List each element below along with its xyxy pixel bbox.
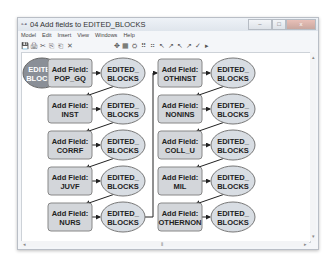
add-field-tool-node[interactable]: Add Field:COLL_U (158, 131, 202, 159)
tool-label-line1: Add Field: (52, 137, 89, 146)
output-data-node[interactable]: EDITED_BLOCKS (211, 130, 255, 160)
fit-icon[interactable]: ⠶ (149, 41, 156, 50)
menu-edit[interactable]: Edit (42, 32, 51, 40)
menu-model[interactable]: Model (21, 32, 36, 40)
scroll-right-icon[interactable]: ▸ (304, 241, 307, 247)
output-label-line2: BLOCKS (107, 110, 139, 119)
tool-label-line1: Add Field: (52, 65, 89, 74)
delete-icon[interactable]: ✕ (66, 41, 73, 50)
connector (145, 73, 157, 217)
tool-label-line2: MIL (174, 182, 187, 191)
paste-icon[interactable]: ⎗ (57, 41, 64, 50)
connector (196, 86, 225, 96)
menu-windows[interactable]: Windows (95, 32, 117, 40)
minimize-button[interactable]: – (248, 19, 272, 30)
tool-label-line2: INST (61, 110, 79, 119)
output-label-line2: BLOCKS (217, 182, 249, 191)
output-data-node[interactable]: EDITED_BLOCKS (211, 58, 255, 88)
menu-insert[interactable]: Insert (57, 32, 71, 40)
menu-view[interactable]: View (77, 32, 89, 40)
select-tool-icon[interactable]: ↖ (176, 41, 183, 50)
cut-icon[interactable]: ✂ (39, 41, 46, 50)
connector (86, 158, 115, 168)
output-data-node[interactable]: EDITED_BLOCKS (101, 202, 145, 232)
scroll-thumb[interactable]: ⦀ (161, 241, 163, 247)
window-controls: – □ x (248, 19, 316, 28)
model-icon: ⊶ (21, 21, 28, 27)
connect-icon[interactable]: ↗ (167, 41, 174, 50)
window-title: 04 Add fields to EDITED_BLOCKS (30, 20, 145, 29)
output-data-node[interactable]: EDITED_BLOCKS (101, 130, 145, 160)
copy-icon[interactable]: ⎘ (48, 41, 55, 50)
horizontal-scrollbar[interactable]: ◂ ⦀ ▸ (21, 241, 309, 247)
menu-bar: Model Edit Insert View Windows Help (21, 32, 135, 40)
add-connection-icon[interactable]: ↗ (185, 41, 192, 50)
auto-layout-icon[interactable]: ⛭ (131, 41, 138, 50)
output-label-line2: BLOCKS (217, 110, 249, 119)
pan-icon[interactable]: ✥ (113, 41, 120, 50)
tool-label-line1: Add Field: (52, 209, 89, 218)
tool-label-line2: JUVF (60, 182, 80, 191)
output-label-line1: EDITED_ (107, 101, 140, 110)
model-diagram: EDITEDBLOCKSAdd Field:POP_GQEDITED_BLOCK… (22, 53, 310, 242)
full-extent-icon[interactable]: ▦ (122, 41, 129, 50)
output-label-line1: EDITED_ (217, 137, 250, 146)
connector (196, 194, 225, 204)
output-label-line1: EDITED_ (107, 209, 140, 218)
model-canvas[interactable]: EDITEDBLOCKSAdd Field:POP_GQEDITED_BLOCK… (21, 52, 311, 243)
output-label-line2: BLOCKS (107, 74, 139, 83)
add-field-tool-node[interactable]: Add Field:NONINS (158, 95, 202, 123)
toolbar: 💾 🖨 ✂ ⎘ ⎗ ✕ ✥ ▦ ⛭ ⠿ ⠶ ↖ ↗ ↖ ↗ ✓ ▸ (21, 41, 210, 50)
menu-help[interactable]: Help (123, 32, 134, 40)
output-data-node[interactable]: EDITED_BLOCKS (211, 202, 255, 232)
vertical-scrollbar[interactable]: ▴ ▾ (310, 52, 316, 241)
tool-label-line1: Add Field: (162, 209, 199, 218)
connector (86, 86, 115, 96)
connector (86, 122, 115, 132)
output-label-line2: BLOCKS (107, 146, 139, 155)
maximize-button[interactable]: □ (272, 19, 286, 30)
add-field-tool-node[interactable]: Add Field:OTHERNON (158, 203, 202, 231)
output-label-line1: EDITED_ (217, 209, 250, 218)
tool-label-line1: Add Field: (162, 137, 199, 146)
run-icon[interactable]: ▸ (203, 41, 210, 50)
output-label-line2: BLOCKS (107, 182, 139, 191)
output-label-line1: EDITED_ (107, 65, 140, 74)
scroll-left-icon[interactable]: ◂ (23, 241, 26, 247)
output-label-line1: EDITED_ (217, 173, 250, 182)
add-field-tool-node[interactable]: Add Field:JUVF (48, 167, 92, 195)
title-bar[interactable]: ⊶ 04 Add fields to EDITED_BLOCKS – □ x (18, 18, 318, 31)
close-button[interactable]: x (286, 19, 316, 30)
grid-icon[interactable]: ⠿ (140, 41, 147, 50)
connector (86, 194, 115, 204)
tool-label-line2: OTHERNON (159, 218, 202, 227)
tool-label-line2: NURS (59, 218, 80, 227)
output-data-node[interactable]: EDITED_BLOCKS (101, 94, 145, 124)
add-field-tool-node[interactable]: Add Field:NURS (48, 203, 92, 231)
add-field-tool-node[interactable]: Add Field:INST (48, 95, 92, 123)
output-data-node[interactable]: EDITED_BLOCKS (101, 166, 145, 196)
validate-icon[interactable]: ✓ (194, 41, 201, 50)
output-label-line1: EDITED_ (217, 101, 250, 110)
add-field-tool-node[interactable]: Add Field:OTHINST (158, 59, 202, 87)
output-label-line1: EDITED_ (107, 137, 140, 146)
output-data-node[interactable]: EDITED_BLOCKS (101, 58, 145, 88)
output-data-node[interactable]: EDITED_BLOCKS (211, 166, 255, 196)
output-label-line1: EDITED_ (217, 65, 250, 74)
tool-label-line1: Add Field: (162, 173, 199, 182)
tool-label-line2: NONINS (165, 110, 194, 119)
scroll-down-icon[interactable]: ▾ (310, 233, 316, 239)
save-icon[interactable]: 💾 (21, 41, 28, 50)
output-data-node[interactable]: EDITED_BLOCKS (211, 94, 255, 124)
tool-label-line2: OTHINST (164, 74, 197, 83)
tool-label-line1: Add Field: (52, 101, 89, 110)
model-window: ⊶ 04 Add fields to EDITED_BLOCKS – □ x M… (17, 17, 319, 250)
tool-label-line1: Add Field: (162, 101, 199, 110)
output-label-line1: EDITED_ (107, 173, 140, 182)
print-icon[interactable]: 🖨 (30, 41, 37, 50)
scroll-up-icon[interactable]: ▴ (310, 54, 316, 60)
add-field-tool-node[interactable]: Add Field:MIL (158, 167, 202, 195)
add-field-tool-node[interactable]: Add Field:CORRF (48, 131, 92, 159)
add-field-tool-node[interactable]: Add Field:POP_GQ (48, 59, 92, 87)
select-icon[interactable]: ↖ (158, 41, 165, 50)
